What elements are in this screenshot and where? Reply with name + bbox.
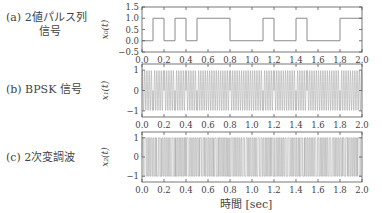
x-tick-label: 0.6 bbox=[201, 120, 215, 130]
x-tick-label: 1.6 bbox=[311, 120, 325, 130]
x-tick-label: 1.4 bbox=[289, 55, 303, 65]
y-tick-label: 0 bbox=[134, 152, 139, 162]
y-tick-label: 1 bbox=[134, 65, 139, 75]
signal-line bbox=[142, 71, 362, 111]
x-tick-label: 1.6 bbox=[311, 185, 325, 195]
x-tick-label: 1.4 bbox=[289, 120, 303, 130]
signal-line bbox=[142, 138, 362, 176]
x-tick-label: 1.8 bbox=[333, 55, 347, 65]
y-axis-label: x₂(t) bbox=[100, 147, 110, 167]
x-tick-label: 0.8 bbox=[223, 185, 237, 195]
x-tick-label: 0.2 bbox=[157, 120, 171, 130]
x-tick-label: 1.2 bbox=[267, 120, 281, 130]
signal-line bbox=[142, 18, 362, 41]
x-tick-label: 2.0 bbox=[355, 55, 369, 65]
x-tick-label: 1.0 bbox=[245, 120, 259, 130]
y-axis-label: x₀(t) bbox=[100, 19, 110, 39]
x-tick-label: 1.0 bbox=[245, 185, 259, 195]
y-tick-label: 0.0 bbox=[125, 36, 139, 46]
x-tick-label: 1.2 bbox=[267, 55, 281, 65]
chart-canvas: 0.00.20.40.60.81.01.21.41.61.82.0−0.50.0… bbox=[0, 0, 382, 213]
x-tick-label: 0.0 bbox=[135, 120, 149, 130]
x-tick-label: 0.2 bbox=[157, 185, 171, 195]
y-axis-label: x₁(t) bbox=[100, 80, 110, 100]
x-tick-label: 0.4 bbox=[179, 55, 193, 65]
x-tick-label: 1.4 bbox=[289, 185, 303, 195]
x-tick-label: 1.8 bbox=[333, 185, 347, 195]
y-tick-label: −1 bbox=[126, 106, 139, 116]
y-tick-label: 1.5 bbox=[125, 2, 139, 12]
x-tick-label: 0.2 bbox=[157, 55, 171, 65]
plot-a: 0.00.20.40.60.81.01.21.41.61.82.0−0.50.0… bbox=[100, 2, 369, 65]
x-tick-label: 0.4 bbox=[179, 185, 193, 195]
x-tick-label: 0.6 bbox=[201, 185, 215, 195]
x-axis-label: 時間 [sec] bbox=[220, 195, 272, 211]
x-tick-label: 0.8 bbox=[223, 55, 237, 65]
y-tick-label: −0.5 bbox=[118, 47, 139, 57]
x-tick-label: 2.0 bbox=[355, 185, 369, 195]
x-tick-label: 0.0 bbox=[135, 185, 149, 195]
x-tick-label: 1.6 bbox=[311, 55, 325, 65]
y-tick-label: 0.5 bbox=[125, 25, 139, 35]
y-tick-label: 0 bbox=[134, 86, 139, 96]
plot-c: 0.00.20.40.60.81.01.21.41.61.82.0−101x₂(… bbox=[100, 132, 369, 195]
x-tick-label: 0.4 bbox=[179, 120, 193, 130]
x-tick-label: 1.0 bbox=[245, 55, 259, 65]
plot-b: 0.00.20.40.60.81.01.21.41.61.82.0−101x₁(… bbox=[100, 64, 369, 130]
x-tick-label: 1.8 bbox=[333, 120, 347, 130]
x-tick-label: 0.6 bbox=[201, 55, 215, 65]
x-tick-label: 1.2 bbox=[267, 185, 281, 195]
y-tick-label: 1.0 bbox=[125, 13, 139, 23]
y-tick-label: 1 bbox=[134, 133, 139, 143]
x-tick-label: 0.8 bbox=[223, 120, 237, 130]
y-tick-label: −1 bbox=[126, 171, 139, 181]
x-tick-label: 2.0 bbox=[355, 120, 369, 130]
